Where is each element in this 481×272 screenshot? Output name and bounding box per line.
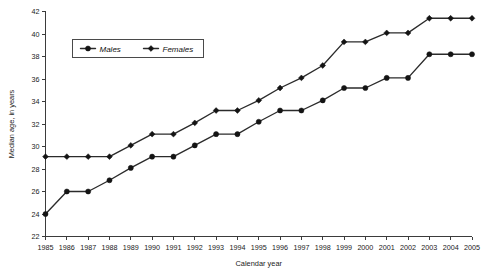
x-tick-label: 1997 (293, 243, 309, 252)
data-point-males-2005 (469, 52, 474, 57)
y-tick-label: 32 (32, 120, 40, 129)
data-point-males-1999 (342, 85, 347, 90)
data-point-males-2003 (427, 52, 432, 57)
y-tick-label: 30 (32, 142, 40, 151)
x-axis-title: Calendar year (236, 259, 283, 268)
x-tick-label: 1991 (165, 243, 181, 252)
data-point-females-1995 (256, 97, 262, 103)
data-point-males-1985 (43, 211, 48, 216)
x-tick-label: 1987 (80, 243, 96, 252)
data-point-males-2004 (448, 52, 453, 57)
x-tick-label: 1996 (272, 243, 288, 252)
data-point-females-1997 (299, 75, 305, 81)
y-tick-label: 34 (32, 97, 40, 106)
series-females (43, 15, 475, 159)
y-axis-title: Median age, in years (7, 89, 16, 158)
x-tick-label: 2002 (400, 243, 416, 252)
x-tick-label: 1993 (208, 243, 224, 252)
data-point-males-1994 (235, 132, 240, 137)
x-tick-label: 1995 (251, 243, 267, 252)
chart-canvas: 2224262830323436384042198519861987198819… (0, 0, 481, 272)
y-tick-label: 28 (32, 165, 40, 174)
x-tick-label: 2003 (421, 243, 437, 252)
data-point-males-1991 (171, 154, 176, 159)
data-point-females-1991 (171, 131, 177, 137)
data-point-females-1988 (107, 154, 113, 160)
data-point-males-2000 (363, 85, 368, 90)
x-tick-label: 2004 (443, 243, 459, 252)
data-point-females-1990 (149, 131, 155, 137)
x-tick-label: 2000 (357, 243, 373, 252)
x-tick-label: 2005 (464, 243, 480, 252)
y-tick-label: 22 (32, 232, 40, 241)
chart-legend: MalesFemales (73, 40, 204, 58)
data-point-females-2004 (448, 15, 454, 21)
data-point-males-1997 (299, 108, 304, 113)
x-tick-label: 1994 (229, 243, 245, 252)
y-tick-label: 40 (32, 30, 40, 39)
data-point-females-1985 (43, 154, 49, 160)
data-point-females-1989 (128, 142, 134, 148)
data-point-females-1996 (277, 85, 283, 91)
y-tick-label: 26 (32, 187, 40, 196)
x-tick-label: 1990 (144, 243, 160, 252)
x-tick-label: 1985 (38, 243, 54, 252)
data-point-females-1992 (192, 120, 198, 126)
data-point-males-2002 (405, 75, 410, 80)
data-point-females-1986 (64, 154, 70, 160)
data-point-males-1990 (150, 154, 155, 159)
y-tick-label: 24 (32, 210, 40, 219)
x-tick-label: 1999 (336, 243, 352, 252)
x-tick-label: 1998 (315, 243, 331, 252)
x-tick-label: 1986 (59, 243, 75, 252)
data-point-females-1994 (235, 108, 241, 114)
x-tick-label: 1989 (123, 243, 139, 252)
data-point-females-2001 (384, 30, 390, 36)
data-point-males-1992 (192, 143, 197, 148)
data-point-females-1987 (85, 154, 91, 160)
x-tick-label: 1992 (187, 243, 203, 252)
data-point-males-2001 (384, 75, 389, 80)
series-males (43, 52, 475, 217)
data-point-females-2000 (362, 39, 368, 45)
x-tick-label: 1988 (101, 243, 117, 252)
data-point-males-1988 (107, 178, 112, 183)
data-point-males-1996 (278, 108, 283, 113)
data-point-males-1986 (64, 189, 69, 194)
data-point-males-1998 (320, 98, 325, 103)
data-point-males-1989 (128, 165, 133, 170)
legend-label-females: Females (163, 45, 194, 54)
x-tick-label: 2001 (379, 243, 395, 252)
data-point-females-2005 (469, 15, 475, 21)
data-point-females-1993 (213, 108, 219, 114)
data-point-males-1993 (214, 132, 219, 137)
axis-titles: Median age, in yearsCalendar year (7, 89, 283, 268)
y-tick-label: 36 (32, 75, 40, 84)
y-tick-label: 42 (32, 7, 40, 16)
median-age-line-chart: 2224262830323436384042198519861987198819… (0, 0, 481, 272)
legend-marker-circle-icon (85, 46, 90, 51)
data-point-males-1987 (86, 189, 91, 194)
data-point-males-1995 (256, 119, 261, 124)
y-tick-label: 38 (32, 52, 40, 61)
legend-label-males: Males (100, 45, 121, 54)
